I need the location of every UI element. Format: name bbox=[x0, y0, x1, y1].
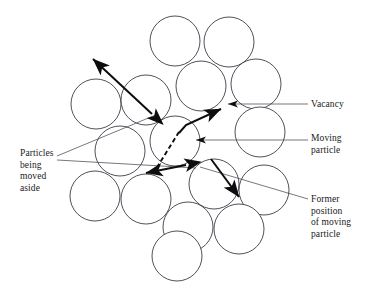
label-former-position: Former position of moving particle bbox=[311, 194, 351, 240]
label-vacancy: Vacancy bbox=[311, 99, 344, 111]
particle-circle bbox=[121, 174, 171, 224]
particle-circle bbox=[235, 107, 285, 157]
particle-circle-vacancy-neighbor bbox=[150, 116, 200, 166]
particle-cluster bbox=[70, 16, 289, 281]
diagram-page: Vacancy Moving particle Former position … bbox=[0, 0, 368, 293]
particle-circle bbox=[204, 17, 254, 67]
label-moving-particle: Moving particle bbox=[311, 133, 342, 156]
label-particles-being-moved-aside: Particles being moved aside bbox=[20, 148, 54, 194]
particle-circle bbox=[95, 126, 145, 176]
particle-circle bbox=[214, 204, 264, 254]
particle-circle bbox=[231, 59, 281, 109]
particle-circle bbox=[150, 16, 200, 66]
particle-circle bbox=[121, 75, 171, 125]
particle-circle-moving bbox=[189, 159, 239, 209]
particle-circle bbox=[152, 231, 202, 281]
particle-circle bbox=[176, 61, 226, 111]
particle-circle bbox=[70, 171, 120, 221]
particle-circle bbox=[71, 79, 121, 129]
